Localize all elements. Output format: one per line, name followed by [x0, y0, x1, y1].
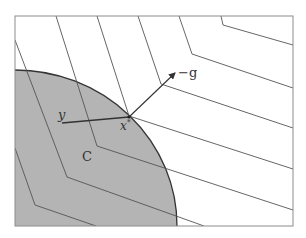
- label-set-c: C: [82, 149, 92, 164]
- level-set-3: [138, 16, 293, 128]
- level-set-1: [221, 16, 293, 45]
- optimality-diagram: y x* −g C: [0, 0, 306, 238]
- neg-gradient-arrow: [129, 73, 175, 117]
- label-y: y: [57, 107, 66, 122]
- label-neg-g: −g: [178, 65, 197, 80]
